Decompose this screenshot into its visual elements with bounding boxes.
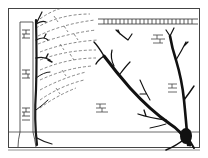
left-tree <box>35 12 52 145</box>
illustration <box>0 0 208 158</box>
wall-top <box>98 19 198 24</box>
brick-pillar <box>18 22 36 147</box>
brick-marks <box>96 35 177 112</box>
